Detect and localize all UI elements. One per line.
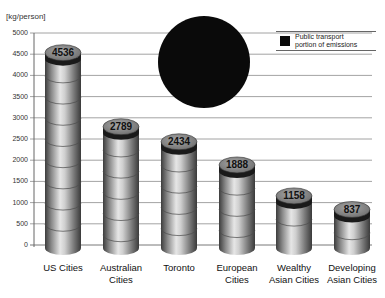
legend: Public transport portion of emissions xyxy=(276,31,376,51)
legend-line-1: Public transport xyxy=(295,33,357,41)
bar-value-label: 2789 xyxy=(110,121,133,132)
bar-cylinder: 2789 xyxy=(103,119,139,255)
legend-swatch-icon xyxy=(280,36,290,46)
bar-value-label: 2434 xyxy=(168,136,191,147)
legend-label: Public transport portion of emissions xyxy=(295,33,357,49)
bar-cylinder: 4536 xyxy=(45,45,81,255)
bar-cylinder: 2434 xyxy=(161,134,197,255)
bar-cylinder: 1158 xyxy=(276,188,312,255)
bar-value-label: 1888 xyxy=(226,159,249,170)
bar-value-label: 837 xyxy=(344,204,361,215)
category-line-1: Developing xyxy=(317,262,385,274)
legend-line-2: portion of emissions xyxy=(295,41,357,49)
bar-cylinder: 1888 xyxy=(219,157,255,255)
public-transport-circle xyxy=(158,16,250,108)
bar-value-label: 1158 xyxy=(283,190,305,201)
category-line-2: Asian Cities xyxy=(317,274,385,286)
chart-area: [kg/person] 0500100015002000250030003500… xyxy=(0,0,385,298)
category-line-2: Cities xyxy=(86,274,156,286)
x-axis-category-label: DevelopingAsian Cities xyxy=(317,262,385,286)
bar-cylinder: 837 xyxy=(334,202,370,255)
bar-value-label: 4536 xyxy=(52,47,75,58)
